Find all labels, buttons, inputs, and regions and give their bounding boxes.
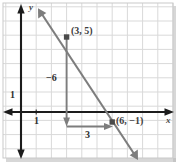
- y-axis-label: y: [29, 3, 33, 12]
- point-3-5: [64, 34, 69, 39]
- x-axis-label: x: [166, 116, 171, 125]
- point-6-neg1: [110, 119, 115, 124]
- rise-label: −6: [46, 73, 57, 83]
- x-unit-label: 1: [34, 116, 39, 126]
- y-unit-label: 1: [10, 90, 15, 100]
- point-label-upper: (3, 5): [71, 26, 93, 36]
- run-label: 3: [85, 130, 90, 140]
- coordinate-graph-figure: y x (3, 5) (6, −1) −6 3 1 1: [0, 0, 182, 167]
- point-label-lower: (6, −1): [116, 116, 143, 126]
- figure-shadow-bottom: [6, 158, 176, 162]
